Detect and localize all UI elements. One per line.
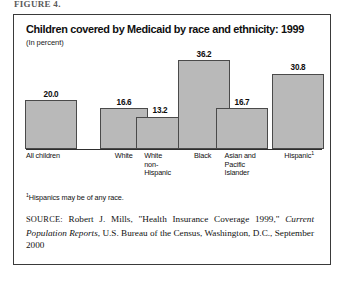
chart-baseline-axis	[26, 149, 322, 150]
bar	[216, 108, 268, 149]
bar	[272, 74, 324, 149]
category-label: All children	[26, 152, 60, 161]
category-label: Hispanic1	[284, 152, 314, 161]
chart-subtitle: (In percent)	[26, 38, 64, 47]
chart-title: Children covered by Medicaid by race and…	[26, 23, 304, 35]
bar	[25, 100, 77, 149]
footnote-text: Hispanics may be of any race.	[29, 193, 124, 202]
bar-value-label: 30.8	[273, 62, 322, 72]
bar-value-label: 13.2	[137, 105, 183, 115]
bar-value-label: 20.0	[26, 89, 75, 99]
chart-source-citation: SOURCE: Robert J. Mills, "Health Insuran…	[26, 213, 314, 252]
source-label: SOURCE:	[26, 215, 63, 224]
bar-group: 20.0	[25, 51, 77, 149]
category-label: Whitenon-Hispanic	[144, 152, 171, 178]
clipped-figure-caption: FIGURE 4.	[14, 0, 94, 7]
bar-value-label: 16.7	[217, 97, 266, 107]
category-label: White	[115, 152, 133, 161]
category-label: Asian andPacificIslander	[225, 152, 256, 178]
bar-group: 16.7	[216, 51, 268, 149]
chart-plot-area: 20.016.613.236.216.730.8	[26, 51, 320, 149]
bar	[136, 117, 184, 149]
figure-box: Children covered by Medicaid by race and…	[13, 14, 331, 265]
chart-footnote: 1Hispanics may be of any race.	[26, 193, 124, 202]
category-label: Black	[194, 152, 211, 161]
bar-group: 30.8	[272, 51, 324, 149]
source-text-part1: Robert J. Mills, "Health Insurance Cover…	[63, 214, 285, 224]
bar-group: 13.2	[136, 51, 184, 149]
chart-category-axis-labels: All childrenWhiteWhitenon-HispanicBlackA…	[26, 152, 320, 186]
